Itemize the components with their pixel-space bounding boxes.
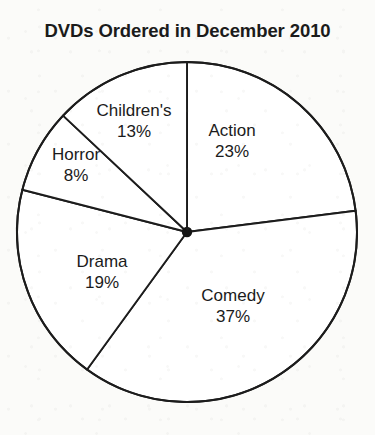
slice-label-value: 37% [201,306,264,327]
pie-chart-figure: DVDs Ordered in December 2010 Action23%C… [0,0,375,435]
slice-label-value: 19% [76,272,127,293]
slice-label-value: 8% [52,165,100,186]
slice-label-drama: Drama19% [76,252,127,293]
slice-label-comedy: Comedy37% [201,286,264,327]
slice-label-horror: Horror8% [52,145,100,186]
slice-label-name: Action [208,121,255,142]
slice-label-name: Children's [96,101,171,122]
slice-label-value: 13% [96,121,171,142]
pie-chart-graphic [0,0,375,435]
slice-label-value: 23% [208,141,255,162]
slice-label-name: Drama [76,252,127,273]
slice-label-action: Action23% [208,121,255,162]
slice-label-name: Horror [52,145,100,166]
slice-label-name: Comedy [201,286,264,307]
slice-label-children-s: Children's13% [96,101,171,142]
pie-center-dot [182,227,192,237]
